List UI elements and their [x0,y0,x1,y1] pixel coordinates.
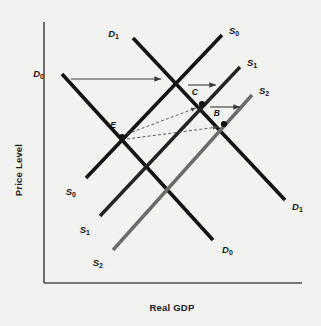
diagram-canvas: D0D0D1D1S0S0S1S1S2S2 ECB Price Level Rea… [0,0,321,326]
equilibrium-point-C [199,101,205,107]
aggregate-supply-demand-figure: D0D0D1D1S0S0S1S1S2S2 ECB Price Level Rea… [0,0,321,326]
y-axis-label: Price Level [13,144,24,196]
figure-background [0,0,321,326]
point-label-B: B [214,108,220,118]
point-label-E: E [110,120,116,130]
equilibrium-point-E [119,134,125,140]
x-axis-label: Real GDP [150,302,195,313]
equilibrium-point-B [221,121,227,127]
point-label-C: C [192,87,199,97]
